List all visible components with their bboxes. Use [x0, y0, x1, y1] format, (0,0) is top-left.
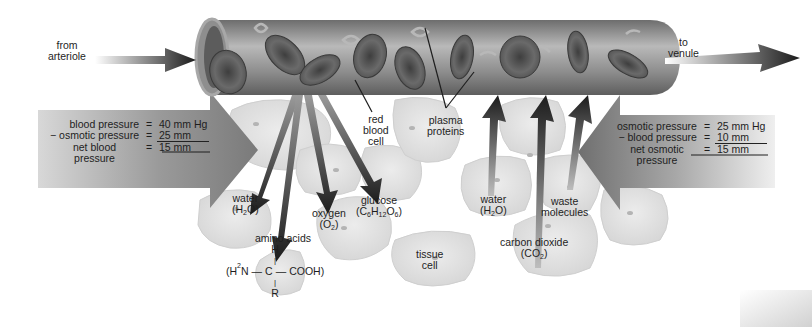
eq-row: − osmotic pressure = 25 mm: [48, 130, 209, 142]
amino-r-group: R: [210, 288, 340, 299]
eq-value: 15 mm: [157, 142, 209, 154]
plasma-line-2: proteins: [427, 126, 464, 137]
eq-value: 10 mm: [715, 132, 767, 144]
eq-op: =: [699, 144, 715, 156]
amino-acid-formula: amino acids H | (H2N — C — COOH) | R: [230, 233, 340, 299]
water-in-formula: (H2O): [480, 205, 507, 216]
eq-op: =: [699, 132, 715, 144]
amino-main-chain: (H2N — C — COOH): [226, 266, 340, 277]
eq-row: pressure: [615, 155, 767, 166]
eq-value: 15 mm: [715, 144, 767, 156]
water-in-label: water (H2O): [480, 194, 507, 216]
water-out-formula: (H2O): [232, 204, 259, 215]
tissue-cell-label: tissue cell: [416, 249, 443, 271]
rbc-line-3: cell: [363, 136, 389, 147]
from-arteriole-line-2: arteriole: [48, 51, 86, 62]
glucose-label: glucose (C6H12O6): [356, 195, 402, 217]
eq-op: [141, 153, 157, 164]
inflow-arrow: [95, 48, 196, 72]
from-arteriole-label: from arteriole: [48, 40, 86, 62]
arterial-pressure-equation: blood pressure = 40 mm Hg − osmotic pres…: [48, 119, 209, 164]
oxygen-formula: (O2): [312, 219, 346, 230]
co2-formula: (CO2): [500, 248, 568, 259]
eq-row: − blood pressure = 10 mm: [615, 132, 767, 144]
eq-value: 25 mm: [157, 130, 209, 142]
eq-row: net blood = 15 mm: [48, 142, 209, 154]
waste-line-2: molecules: [541, 207, 588, 218]
venous-pressure-equation: osmotic pressure = 25 mm Hg − blood pres…: [615, 121, 767, 166]
amino-top-h: H: [210, 244, 340, 255]
eq-row: pressure: [48, 153, 209, 164]
glucose-formula: (C6H12O6): [356, 206, 402, 217]
eq-op: [699, 155, 715, 166]
to-venule-line-2: venule: [668, 48, 699, 59]
eq-key: − osmotic pressure: [48, 130, 141, 142]
eq-value: [157, 153, 209, 164]
eq-op: =: [141, 130, 157, 142]
red-blood-cell-label: red blood cell: [363, 114, 389, 147]
tissue-line-2: cell: [416, 260, 443, 271]
amino-acids-name: amino acids: [226, 233, 340, 244]
water-out-label: water (H2O): [232, 193, 259, 215]
plasma-proteins-label: plasma proteins: [427, 115, 464, 137]
eq-key: pressure: [615, 155, 699, 166]
eq-value: [715, 155, 767, 166]
capillary-exchange-diagram: from arteriole to venule blood pressure …: [0, 0, 812, 327]
carbon-dioxide-label: carbon dioxide (CO2): [500, 237, 568, 259]
eq-op: =: [141, 142, 157, 154]
eq-key: − blood pressure: [615, 132, 699, 144]
oxygen-label: oxygen (O2): [312, 208, 346, 230]
eq-key: pressure: [48, 153, 141, 164]
waste-molecules-label: waste molecules: [541, 196, 588, 218]
to-venule-label: to venule: [668, 37, 699, 59]
